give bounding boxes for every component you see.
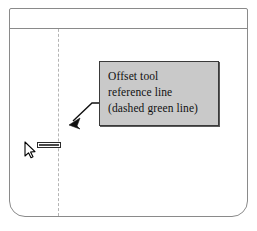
annotation-callout: Offset tool reference line (dashed green… (99, 61, 219, 126)
callout-line-1: Offset tool (108, 68, 218, 84)
screenshot-stage: Offset tool reference line (dashed green… (0, 0, 257, 231)
drawing-canvas[interactable]: Offset tool reference line (dashed green… (10, 29, 247, 216)
callout-line-3: (dashed green line) (108, 100, 218, 116)
mouse-pointer-icon (24, 141, 38, 159)
offset-value-readout (37, 142, 61, 148)
callout-line-2: reference line (108, 84, 218, 100)
drawing-application-window: Offset tool reference line (dashed green… (9, 8, 248, 217)
offset-value-bar (39, 144, 59, 146)
